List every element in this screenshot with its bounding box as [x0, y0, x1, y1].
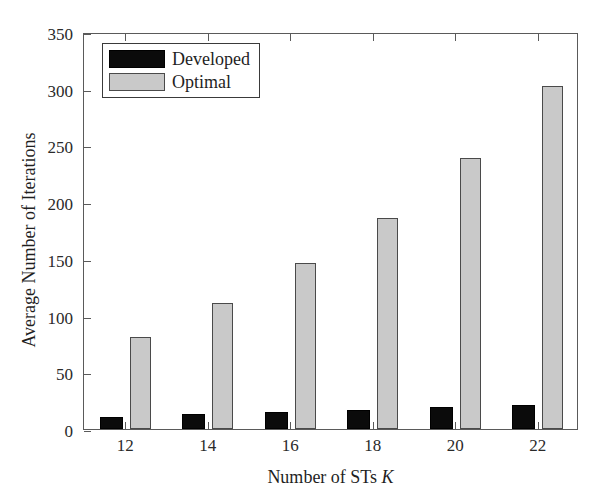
bar-developed: [100, 417, 123, 429]
x-tick-label: 20: [447, 437, 464, 454]
bar-developed: [265, 412, 288, 429]
y-tick-mark: [84, 374, 91, 375]
y-tick-label: 350: [48, 26, 74, 43]
y-tick-label: 250: [48, 139, 74, 156]
legend-label-developed: Developed: [172, 50, 250, 68]
x-tick-mark: [125, 422, 126, 429]
y-tick-mark: [84, 261, 91, 262]
y-tick-mark: [84, 91, 91, 92]
y-tick-label: 50: [56, 366, 73, 383]
x-tick-mark-top: [208, 34, 209, 41]
bar-developed: [512, 405, 535, 429]
y-tick-label: 300: [48, 82, 74, 99]
x-tick-label: 12: [117, 437, 134, 454]
legend-swatch-optimal: [109, 73, 165, 91]
y-tick-mark: [84, 431, 91, 432]
bar-optimal: [377, 218, 398, 429]
x-tick-mark: [455, 422, 456, 429]
chart-legend: Developed Optimal: [102, 43, 260, 98]
x-tick-label: 16: [282, 437, 299, 454]
legend-swatch-developed: [109, 50, 165, 68]
x-tick-mark: [290, 422, 291, 429]
x-tick-mark-top: [538, 34, 539, 41]
bar-optimal: [460, 158, 481, 429]
y-tick-mark: [84, 318, 91, 319]
x-tick-label: 18: [364, 437, 381, 454]
bar-developed: [430, 407, 453, 429]
bar-optimal: [295, 263, 316, 429]
bar-optimal: [212, 303, 233, 429]
x-axis-title-text: Number of STs: [267, 467, 381, 487]
y-tick-label: 150: [48, 252, 74, 269]
bar-developed: [347, 410, 370, 429]
x-tick-mark: [208, 422, 209, 429]
x-tick-mark-top: [455, 34, 456, 41]
x-tick-mark: [373, 422, 374, 429]
x-tick-label: 22: [529, 437, 546, 454]
y-axis-title: Average Number of Iterations: [20, 40, 38, 440]
legend-item-optimal: Optimal: [109, 71, 250, 93]
legend-item-developed: Developed: [109, 48, 250, 70]
x-axis-title: Number of STs K: [83, 468, 578, 486]
y-tick-label: 200: [48, 196, 74, 213]
x-tick-mark-top: [125, 34, 126, 41]
x-tick-mark: [538, 422, 539, 429]
figure: 050100150200250300350 121416182022 Devel…: [0, 0, 616, 500]
legend-label-optimal: Optimal: [172, 73, 231, 91]
y-tick-mark: [84, 204, 91, 205]
y-tick-mark: [84, 147, 91, 148]
x-axis-title-symbol: K: [382, 467, 394, 487]
y-tick-label: 0: [65, 423, 74, 440]
x-tick-mark-top: [373, 34, 374, 41]
bar-optimal: [542, 86, 563, 429]
x-tick-label: 14: [199, 437, 216, 454]
y-tick-mark: [84, 34, 91, 35]
bar-optimal: [130, 337, 151, 429]
y-tick-label: 100: [48, 309, 74, 326]
plot-area: 050100150200250300350 121416182022 Devel…: [83, 33, 578, 430]
bar-developed: [182, 414, 205, 429]
x-tick-mark-top: [290, 34, 291, 41]
